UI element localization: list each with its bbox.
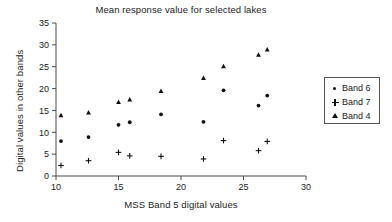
svg-text:0: 0	[44, 171, 49, 181]
legend-item-label: Band 6	[342, 83, 371, 93]
data-point	[221, 64, 226, 68]
data-point	[256, 52, 261, 57]
data-point	[201, 75, 206, 80]
data-point	[265, 47, 270, 52]
legend-item: Band 4	[329, 109, 379, 123]
axis-ticks	[52, 23, 306, 180]
axes	[56, 23, 306, 176]
legend: Band 6 Band 7 Band 4	[324, 77, 380, 124]
data-point	[116, 150, 122, 156]
svg-text:10: 10	[39, 128, 49, 138]
svg-text:30: 30	[39, 40, 49, 50]
legend-item: Band 6	[329, 81, 379, 95]
data-point	[117, 123, 121, 127]
data-point	[202, 120, 206, 124]
data-point	[127, 97, 132, 102]
svg-text:35: 35	[39, 18, 49, 28]
dot-marker-icon	[329, 82, 341, 94]
data-point	[128, 120, 132, 124]
svg-text:15: 15	[39, 106, 49, 116]
svg-text:20: 20	[176, 182, 186, 192]
svg-text:20: 20	[39, 84, 49, 94]
triangle-marker-icon	[329, 110, 341, 122]
data-point	[159, 89, 164, 94]
legend-item-label: Band 4	[342, 111, 371, 121]
data-point	[116, 100, 121, 105]
svg-text:10: 10	[51, 182, 61, 192]
plus-marker-icon	[329, 96, 341, 108]
scatter-chart: Mean response value for selected lakes D…	[0, 0, 392, 222]
data-point	[59, 113, 64, 118]
data-point	[58, 163, 64, 169]
data-point	[201, 156, 207, 162]
data-point	[221, 138, 227, 144]
legend-item-label: Band 7	[342, 97, 371, 107]
data-point	[59, 139, 63, 143]
data-point	[86, 158, 92, 164]
legend-item: Band 7	[329, 95, 379, 109]
data-point	[265, 94, 269, 98]
svg-text:25: 25	[39, 62, 49, 72]
svg-text:15: 15	[113, 182, 123, 192]
svg-text:30: 30	[301, 182, 311, 192]
data-point	[256, 148, 262, 154]
svg-text:25: 25	[238, 182, 248, 192]
data-point	[87, 135, 91, 139]
data-point	[127, 153, 133, 159]
data-point	[264, 139, 270, 145]
axis-tick-labels: 101520253005101520253035	[39, 18, 311, 192]
data-point	[257, 104, 261, 108]
data-point	[159, 112, 163, 116]
data-point	[158, 154, 164, 160]
data-point	[86, 110, 91, 115]
data-points	[58, 47, 270, 168]
data-point	[222, 88, 226, 92]
svg-text:5: 5	[44, 149, 49, 159]
